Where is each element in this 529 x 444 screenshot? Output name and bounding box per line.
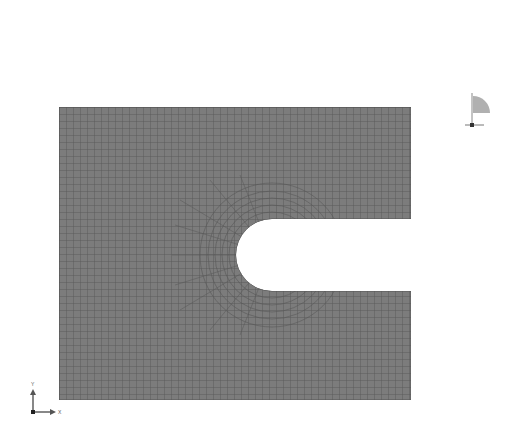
- model-viewport[interactable]: Y X: [0, 0, 529, 444]
- triad-x-label: X: [58, 409, 62, 415]
- coordinate-triad-icon: Y X: [30, 381, 62, 415]
- mesh-plate[interactable]: [59, 107, 411, 400]
- view-orientation-icon[interactable]: [465, 93, 490, 127]
- triad-y-label: Y: [31, 381, 35, 387]
